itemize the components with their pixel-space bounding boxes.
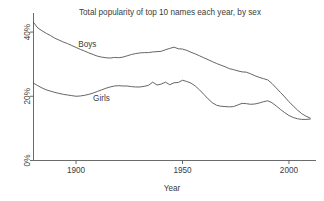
x-axis-ticks: 190019502000: [67, 161, 299, 176]
series-lines: [34, 22, 311, 119]
chart-container: Total popularity of top 10 names each ye…: [0, 0, 324, 201]
x-tick-label: 1950: [173, 166, 192, 175]
series-label-girls: Girls: [93, 94, 110, 103]
y-tick-label: 20%: [23, 88, 32, 104]
series-line-girls: [34, 80, 311, 119]
x-tick-label: 1900: [67, 166, 86, 175]
y-tick-label: 40%: [23, 24, 32, 40]
series-line-boys: [34, 22, 311, 118]
series-label-boys: Boys: [78, 40, 96, 49]
popularity-line-chart: Total popularity of top 10 names each ye…: [0, 0, 324, 201]
x-axis-title: Year: [164, 184, 181, 193]
chart-title: Total popularity of top 10 names each ye…: [79, 8, 261, 17]
series-annotations: BoysGirls: [78, 40, 110, 103]
x-tick-label: 2000: [280, 166, 299, 175]
y-axis-ticks: 0%20%40%: [23, 24, 34, 167]
y-tick-label: 0%: [23, 155, 32, 167]
